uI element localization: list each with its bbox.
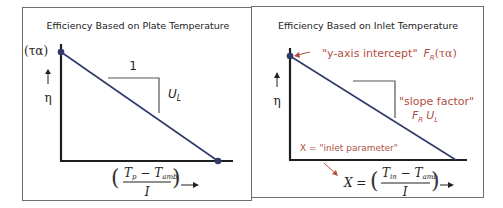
intercept-arrowhead-icon — [294, 52, 300, 58]
svg-text:(: ( — [111, 165, 120, 190]
x-axis-prefix: X = — [343, 176, 366, 190]
intercept-annotation: "y-axis intercept"FR(τα) — [322, 47, 457, 62]
svg-text:(: ( — [370, 168, 379, 193]
y-arrowhead-icon — [274, 72, 280, 78]
x-intercept-point — [215, 158, 222, 165]
inlet-parameter-annotation: X = "inlet parameter" — [300, 143, 398, 153]
chart-title: Efficiency Based on Inlet Temperature — [278, 20, 458, 31]
y-intercept-label: (τα) — [24, 44, 48, 58]
slope-run-label: 1 — [129, 59, 137, 73]
svg-text:): ) — [172, 165, 181, 190]
x-axis-label: ( Tin − Tamb I ) — [370, 166, 440, 199]
svg-text:I: I — [144, 185, 150, 199]
efficiency-line — [61, 52, 218, 161]
y-axis-label: η — [273, 94, 280, 108]
slope-annotation: "slope factor" — [399, 95, 474, 108]
svg-text:): ) — [431, 168, 440, 193]
x-arrowhead-icon — [193, 182, 199, 188]
y-arrowhead-icon — [45, 69, 51, 74]
panel-plate-temperature: Efficiency Based on Plate Temperature 1 … — [22, 7, 252, 201]
svg-text:Tp − Tamb: Tp − Tamb — [124, 166, 178, 181]
intercept-point — [58, 49, 65, 56]
x-arrowhead-icon — [448, 182, 454, 188]
intercept-point — [287, 53, 294, 60]
chart-title: Efficiency Based on Plate Temperature — [47, 20, 230, 31]
panel-inlet-temperature: Efficiency Based on Inlet Temperature "y… — [251, 6, 484, 198]
chart-plate-temperature: Efficiency Based on Plate Temperature 1 … — [23, 8, 253, 202]
slope-symbol: FRUL — [412, 109, 438, 124]
slope-guide — [108, 78, 159, 113]
x-axis-label: ( Tp − Tamb I ) — [111, 165, 181, 199]
chart-inlet-temperature: Efficiency Based on Inlet Temperature "y… — [252, 7, 485, 199]
y-axis-label: η — [44, 91, 51, 105]
inlet-pointer-icon — [324, 163, 335, 173]
svg-text:I: I — [402, 185, 408, 199]
slope-rise-label: UL — [168, 87, 181, 103]
svg-text:Tin − Tamb: Tin − Tamb — [382, 166, 438, 181]
